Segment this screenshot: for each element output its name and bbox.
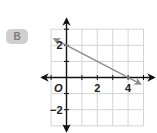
origin-label: O	[54, 82, 63, 94]
x-tick-labels: 24	[94, 82, 132, 94]
x-tick-label: 2	[94, 82, 100, 94]
y-tick-label: 2	[56, 39, 62, 51]
coordinate-plane: O 24 2−2	[0, 0, 157, 133]
x-tick-label: 4	[125, 82, 132, 94]
y-tick-label: −2	[50, 104, 63, 116]
